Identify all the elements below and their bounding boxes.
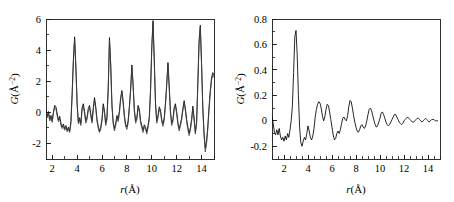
y-axis-title: G(Å−2) (234, 73, 247, 105)
y-tick-label: -2 (32, 138, 41, 149)
x-tick-label: 14 (196, 163, 207, 174)
x-axis-title: r(Å) (346, 183, 366, 196)
x-tick-label: 4 (74, 163, 80, 174)
y-tick-label: 0.4 (254, 65, 268, 76)
y-tick-label: 0 (262, 115, 267, 126)
x-tick-label: 10 (147, 163, 158, 174)
y-tick-label: 0 (36, 107, 41, 118)
y-tick-label: 0.6 (254, 39, 267, 50)
y-tick-label: 0.8 (254, 14, 267, 25)
plot-frame (46, 19, 214, 159)
curve-experimental-pdf (46, 21, 214, 149)
right-panel: 2468101214-0.200.20.40.60.8r(Å)G(Å−2) (227, 0, 454, 202)
right-plot-canvas: 2468101214-0.200.20.40.60.8r(Å)G(Å−2) (227, 0, 454, 202)
x-tick-label: 12 (399, 163, 410, 174)
left-panel: 2468101214-20246r(Å)G(Å−2) (0, 0, 227, 202)
x-tick-label: 12 (171, 163, 182, 174)
y-axis-title: G(Å−2) (8, 73, 21, 105)
x-tick-label: 14 (423, 163, 434, 174)
pdf-figure: 2468101214-20246r(Å)G(Å−2) 2468101214-0.… (0, 0, 454, 202)
curve-difference-pdf (272, 30, 438, 146)
curve-group (46, 21, 214, 152)
curve-group (272, 30, 438, 146)
plot-frame (272, 19, 440, 159)
x-tick-label: 4 (305, 163, 311, 174)
y-tick-label: 4 (36, 45, 42, 56)
x-tick-label: 6 (99, 163, 104, 174)
x-tick-label: 10 (375, 163, 386, 174)
x-axis-title: r(Å) (120, 183, 140, 196)
y-tick-label: -0.2 (250, 141, 267, 152)
y-tick-label: 0.2 (254, 90, 267, 101)
x-tick-label: 8 (353, 163, 358, 174)
x-tick-label: 8 (124, 163, 129, 174)
x-tick-label: 6 (329, 163, 334, 174)
y-tick-label: 6 (36, 14, 41, 25)
curve-calculated-fit (46, 23, 214, 152)
x-tick-label: 2 (50, 163, 55, 174)
y-tick-label: 2 (36, 76, 41, 87)
left-plot-canvas: 2468101214-20246r(Å)G(Å−2) (0, 0, 227, 202)
x-tick-label: 2 (281, 163, 286, 174)
